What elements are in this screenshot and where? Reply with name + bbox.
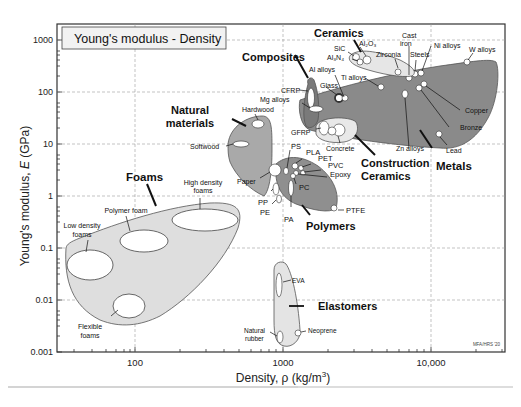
svg-text:Softwood: Softwood	[190, 143, 219, 150]
svg-text:Polymer foam: Polymer foam	[104, 207, 147, 215]
label-construction-1: Construction	[361, 157, 430, 169]
softwood-bubble	[233, 141, 249, 147]
svg-text:Paper: Paper	[237, 178, 256, 186]
pla-bubble	[292, 163, 298, 169]
ti-alloys-dot	[378, 84, 384, 90]
svg-text:Al₂O₃: Al₂O₃	[359, 40, 376, 47]
label-foams: Foams	[126, 171, 163, 183]
svg-text:Ni alloys: Ni alloys	[434, 42, 461, 50]
label-composites: Composites	[242, 51, 305, 63]
lead-dot	[436, 131, 442, 137]
ni-alloys-dot	[418, 70, 424, 76]
svg-text:GFRP: GFRP	[291, 129, 311, 136]
svg-text:iron: iron	[400, 40, 412, 47]
svg-text:0.01: 0.01	[35, 295, 53, 305]
paper-bubble	[269, 164, 281, 176]
ptfe-bubble	[331, 205, 337, 211]
polymer-foam-bubble	[120, 230, 168, 252]
svg-text:Lead: Lead	[446, 147, 462, 154]
svg-text:PTFE: PTFE	[346, 206, 365, 215]
svg-text:Ti alloys: Ti alloys	[341, 74, 367, 82]
svg-text:Neoprene: Neoprene	[308, 327, 337, 335]
label-metals: Metals	[436, 160, 472, 172]
youngs-modulus-density-chart: Young's modulus - Density Foams Natural …	[0, 0, 521, 407]
svg-text:foams: foams	[193, 187, 213, 194]
label-elastomers: Elastomers	[318, 300, 377, 312]
w-alloys-dot	[464, 59, 470, 65]
pet-bubble	[299, 166, 304, 171]
cement-bubble	[328, 127, 336, 135]
svg-text:0.1: 0.1	[40, 243, 53, 253]
svg-text:Flexible: Flexible	[78, 323, 102, 330]
svg-text:W alloys: W alloys	[469, 46, 496, 54]
chart-title-box: Young's modulus - Density	[62, 27, 226, 49]
svg-text:Copper: Copper	[465, 107, 489, 115]
svg-text:Low density: Low density	[64, 222, 101, 230]
svg-text:Al₃N₄: Al₃N₄	[327, 54, 344, 61]
flexible-foams-bubble	[113, 294, 145, 318]
construction-ceramics-family	[316, 118, 358, 143]
svg-text:Al alloys: Al alloys	[309, 66, 336, 74]
svg-text:Bronze: Bronze	[460, 124, 482, 131]
svg-text:CFRP: CFRP	[281, 87, 300, 94]
svg-text:Zirconia: Zirconia	[376, 51, 401, 58]
mg-alloys-bubble	[309, 106, 323, 112]
eva-bubble	[276, 273, 282, 297]
zn-alloys-dot	[402, 90, 408, 98]
chart-title: Young's modulus - Density	[74, 32, 222, 46]
label-natural-1: Natural	[171, 104, 209, 116]
svg-text:1000: 1000	[33, 35, 53, 45]
svg-text:Mg alloys: Mg alloys	[260, 96, 290, 104]
svg-text:Cast: Cast	[402, 32, 416, 39]
hardwood-bubble	[252, 120, 264, 128]
svg-text:Natural: Natural	[244, 327, 266, 334]
x-axis-title: Density, ρ (kg/m3)	[236, 370, 330, 385]
al3n4-bubble	[357, 59, 363, 65]
pa-bubble	[289, 180, 294, 196]
svg-text:PA: PA	[284, 215, 293, 224]
svg-text:100: 100	[38, 87, 53, 97]
bottom-divider-right	[298, 386, 513, 388]
svg-text:rubber: rubber	[245, 335, 265, 342]
svg-text:10: 10	[43, 139, 53, 149]
x-tick-labels: 100 1000 10,000	[127, 357, 445, 368]
label-construction-2: Ceramics	[361, 170, 411, 182]
bottom-divider	[8, 386, 298, 388]
svg-text:High density: High density	[184, 179, 223, 187]
label-polymers: Polymers	[306, 220, 356, 232]
y-axis-title: Young's modulus, E (GPa)	[18, 126, 32, 267]
pc-bubble	[291, 174, 296, 179]
svg-text:foams: foams	[72, 231, 92, 238]
svg-text:10,000: 10,000	[416, 357, 445, 368]
svg-text:Hardwood: Hardwood	[242, 106, 274, 113]
svg-text:Steels: Steels	[410, 51, 430, 58]
svg-text:Glass: Glass	[320, 82, 338, 89]
low-density-foams-bubble	[67, 250, 113, 280]
natural-rubber-bubble	[277, 331, 283, 343]
pp-bubble	[273, 183, 279, 195]
ps-bubble	[284, 168, 289, 175]
svg-text:EVA: EVA	[292, 277, 305, 284]
svg-text:1: 1	[48, 191, 53, 201]
svg-text:Zn alloys: Zn alloys	[396, 145, 425, 153]
svg-text:PC: PC	[299, 183, 310, 192]
y-tick-labels: 1000 100 10 1 0.1 0.01 0.001	[30, 35, 53, 357]
cfrp-bubble	[308, 88, 315, 108]
neoprene-bubble	[295, 330, 301, 336]
svg-text:100: 100	[127, 357, 143, 368]
svg-text:PS: PS	[291, 142, 301, 151]
al2o3-bubble	[363, 56, 371, 64]
pe-bubble	[277, 195, 282, 203]
svg-text:PVC: PVC	[328, 161, 344, 170]
svg-text:foams: foams	[80, 332, 100, 339]
svg-text:0.001: 0.001	[30, 347, 53, 357]
al-alloys-dot	[342, 95, 348, 101]
label-ceramics: Ceramics	[314, 27, 364, 39]
svg-text:PE: PE	[260, 208, 270, 217]
credit-label: MFA/HRS '20	[473, 342, 501, 347]
high-density-foams-bubble	[172, 209, 238, 231]
label-natural-2: materials	[166, 117, 214, 129]
svg-text:SiC: SiC	[334, 45, 345, 52]
svg-text:PP: PP	[258, 198, 268, 207]
zirconia-bubble	[395, 69, 401, 75]
